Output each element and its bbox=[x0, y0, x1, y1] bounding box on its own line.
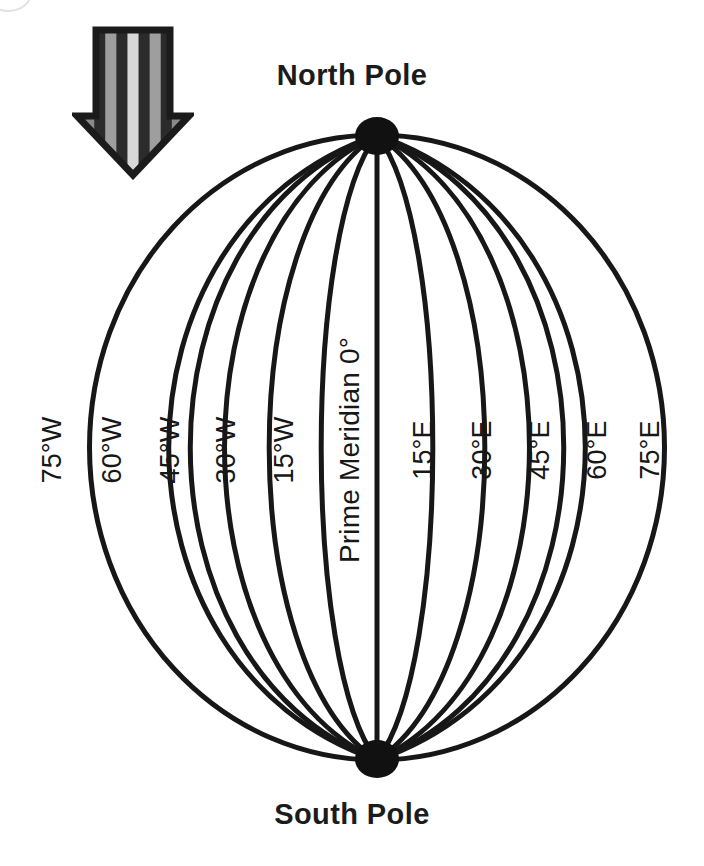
arrow-stripe bbox=[172, 24, 184, 180]
arrow-stripe bbox=[127, 24, 139, 180]
meridian-line bbox=[190, 135, 377, 760]
arrow-stripe bbox=[72, 24, 84, 180]
meridian-line bbox=[169, 135, 377, 760]
meridian-line bbox=[225, 135, 377, 760]
meridian-line-group bbox=[90, 135, 665, 760]
arrow-stripe bbox=[183, 24, 194, 180]
south-pole-marker bbox=[355, 740, 399, 778]
striped-down-arrow-icon bbox=[72, 24, 194, 180]
north-pole-marker bbox=[355, 117, 399, 155]
meridian-line bbox=[377, 135, 433, 760]
south-pole-label: South Pole bbox=[0, 798, 704, 831]
meridian-line bbox=[377, 135, 564, 760]
meridian-line bbox=[377, 135, 585, 760]
meridian-line bbox=[321, 135, 377, 760]
arrow-stripe-fill bbox=[72, 24, 194, 180]
meridian-line bbox=[377, 135, 529, 760]
